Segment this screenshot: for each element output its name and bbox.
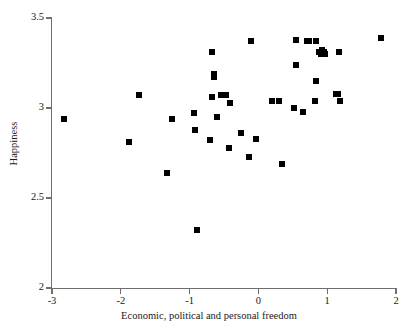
y-tick-label: 2.5 [31,192,44,203]
x-tick-label: -2 [106,296,136,307]
x-tick-mark [120,288,121,294]
data-point [321,49,327,55]
data-point [211,74,217,80]
data-point [293,62,299,68]
data-point [279,161,285,167]
x-tick-label: 0 [243,296,273,307]
data-point [136,92,142,98]
x-tick-label: 1 [312,296,342,307]
data-point [335,91,341,97]
data-point [291,105,297,111]
x-tick-mark [327,288,328,294]
data-point [306,38,312,44]
data-point [293,37,299,43]
data-point [276,98,282,104]
data-point [191,110,197,116]
y-tick-label: 3 [39,102,44,113]
data-point [300,109,306,115]
x-axis-title: Economic, political and personal freedom [0,310,418,321]
data-point [192,127,198,133]
data-point [227,100,233,106]
y-tick-label: 3.5 [31,12,44,23]
data-point [313,78,319,84]
data-point [337,98,343,104]
data-point [223,92,229,98]
y-tick-label: 2 [39,282,44,293]
data-point [126,139,132,145]
scatter-chart: 22.533.5 -3-2-1012 Happiness Economic, p… [0,0,418,331]
data-point [246,154,252,160]
x-tick-mark [395,288,396,294]
data-point [214,114,220,120]
x-tick-label: 2 [381,296,411,307]
data-point [164,170,170,176]
data-point [218,92,224,98]
data-point [248,38,254,44]
data-point [169,116,175,122]
x-tick-mark [51,288,52,294]
data-point [378,35,384,41]
x-tick-label: -1 [175,296,205,307]
x-axis-line [52,288,397,289]
data-point [194,227,200,233]
data-point [226,145,232,151]
y-axis-title: Happiness [8,104,19,184]
data-point [238,130,244,136]
data-point [336,49,342,55]
data-point [209,94,215,100]
data-point [253,136,259,142]
data-point [269,98,275,104]
x-tick-mark [189,288,190,294]
plot-area [52,18,396,288]
x-tick-mark [258,288,259,294]
x-tick-label: -3 [37,296,67,307]
data-point [313,38,319,44]
data-point [61,116,67,122]
data-point [207,137,213,143]
data-point [312,98,318,104]
data-point [209,49,215,55]
